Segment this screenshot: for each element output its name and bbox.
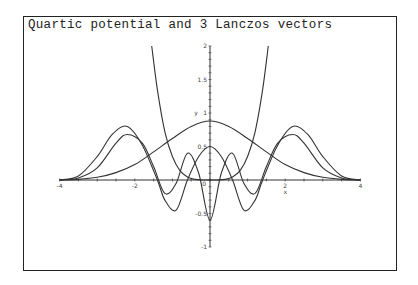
- x-tick-label: -2: [132, 182, 138, 189]
- y-tick-label: 1.5: [197, 76, 207, 83]
- y-tick-label: -0.5: [195, 210, 207, 217]
- y-tick-label: 2: [203, 42, 207, 49]
- y-tick-label: 1: [203, 109, 207, 116]
- y-axis-label: y: [194, 109, 198, 117]
- x-tick-label: -4: [57, 182, 63, 189]
- plot-area: -4-224-1-0.50.511.520xy: [0, 0, 418, 285]
- x-tick-label: 4: [358, 182, 362, 189]
- origin-label: 0: [202, 180, 206, 187]
- y-tick-label: -1: [201, 243, 207, 250]
- x-axis-label: x: [283, 188, 287, 195]
